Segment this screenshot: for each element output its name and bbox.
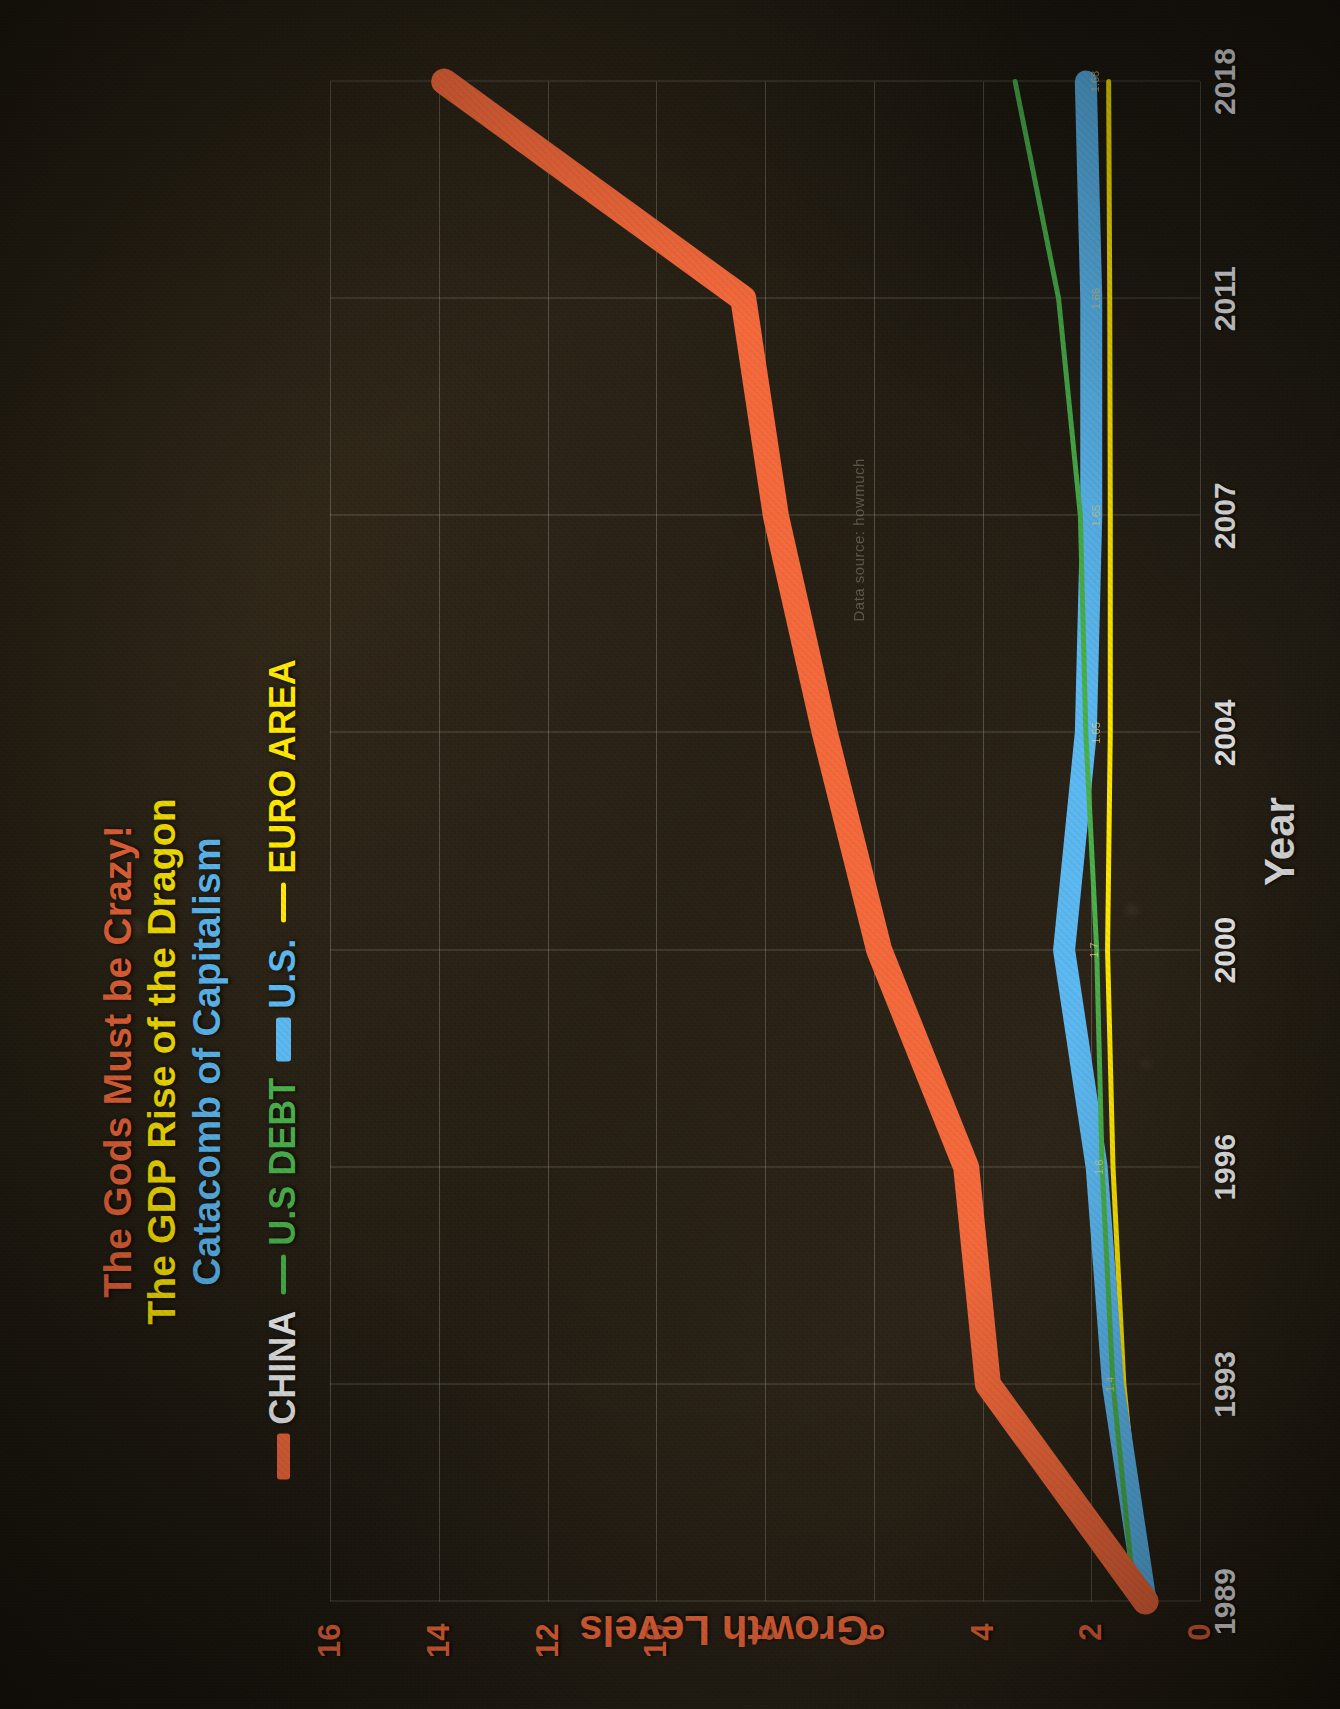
y-axis-tick-label: 0 [1182, 1623, 1218, 1640]
legend-label-euro-area: EURO AREA [262, 659, 304, 874]
data-point-label: 1.7 [1088, 942, 1100, 957]
data-point-label: 1.66 [1090, 287, 1102, 308]
title-line-2: The GDP Rise of the Dragon [140, 681, 184, 1441]
y-axis-tick-label: 16 [312, 1623, 348, 1657]
photo-canvas: The Gods Must be Crazy! The GDP Rise of … [0, 0, 1340, 1709]
legend-swatch-icon-us [276, 1017, 291, 1061]
legend-label-us: U.S. [262, 938, 304, 1008]
data-point-label: 1.65 [1090, 722, 1102, 743]
x-axis-tick-label: 2011 [1208, 266, 1242, 331]
x-axis-ticks: 19891993199620002004200720112018 [1208, 81, 1254, 1601]
x-axis-tick-label: 1996 [1208, 1133, 1242, 1200]
legend-swatch-icon-us-debt [281, 1254, 286, 1294]
x-axis-tick-label: 1993 [1208, 1350, 1242, 1417]
series-line-china [444, 81, 1145, 1601]
plot-area: 1.681.661.651.651.71.61.4 Data source: h… [330, 81, 1200, 1601]
chart-legend: CHINA U.S DEBT U.S. EURO AREA [262, 681, 304, 1441]
x-axis-tick-label: 2000 [1208, 916, 1242, 983]
data-point-label: 1.6 [1093, 1159, 1105, 1174]
data-point-label: 1.65 [1090, 505, 1102, 526]
data-point-label: 1.4 [1104, 1376, 1116, 1391]
legend-item-euro-area[interactable]: EURO AREA [262, 659, 304, 923]
series-lines [330, 81, 1200, 1601]
legend-item-us-debt[interactable]: U.S DEBT [262, 1077, 304, 1294]
chart-stage: The Gods Must be Crazy! The GDP Rise of … [0, 0, 1340, 1709]
chart-titles: The Gods Must be Crazy! The GDP Rise of … [96, 681, 229, 1441]
title-line-1: The Gods Must be Crazy! [96, 681, 140, 1441]
legend-label-china: CHINA [262, 1310, 304, 1424]
x-axis-tick-label: 2004 [1208, 699, 1242, 766]
legend-item-us[interactable]: U.S. [262, 938, 304, 1061]
y-axis-title: Growth Levels [344, 1605, 1104, 1653]
legend-label-us-debt: U.S DEBT [262, 1077, 304, 1245]
watermark-text: Data source: howmuch [850, 458, 867, 621]
x-axis-tick-label: 2018 [1208, 48, 1242, 115]
x-axis-title: Year [1256, 81, 1304, 1601]
title-line-3: Catacomb of Capitalism [185, 681, 229, 1441]
legend-swatch-icon-euro-area [281, 882, 286, 922]
data-point-label: 1.68 [1089, 70, 1101, 91]
x-axis-tick-label: 2007 [1208, 482, 1242, 549]
legend-item-china[interactable]: CHINA [262, 1310, 304, 1479]
legend-swatch-icon-china [277, 1433, 290, 1479]
gridline-horizontal [1200, 81, 1201, 1601]
series-line-u-s- [1064, 81, 1146, 1601]
